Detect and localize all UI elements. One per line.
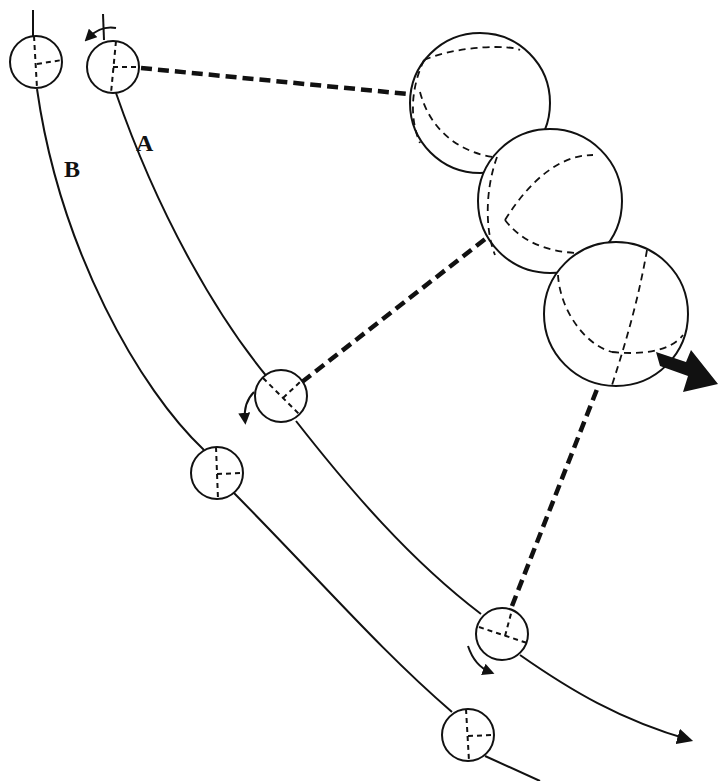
rotation-arrow-icon	[245, 392, 254, 420]
connector-2	[302, 222, 507, 382]
motion-diagram: A B	[0, 0, 719, 781]
direction-arrow-icon	[656, 350, 718, 392]
ball-a2	[245, 370, 307, 422]
connector-1	[141, 68, 418, 95]
ball-b1	[10, 36, 62, 88]
label-path-a: A	[136, 130, 154, 156]
connector-3	[512, 346, 614, 606]
ball-b3	[442, 709, 494, 761]
ball-a3	[468, 608, 528, 672]
label-path-b: B	[64, 156, 80, 182]
rotation-arrow-icon	[88, 27, 116, 38]
ball-a1	[87, 14, 139, 93]
ball-b2	[191, 447, 243, 499]
